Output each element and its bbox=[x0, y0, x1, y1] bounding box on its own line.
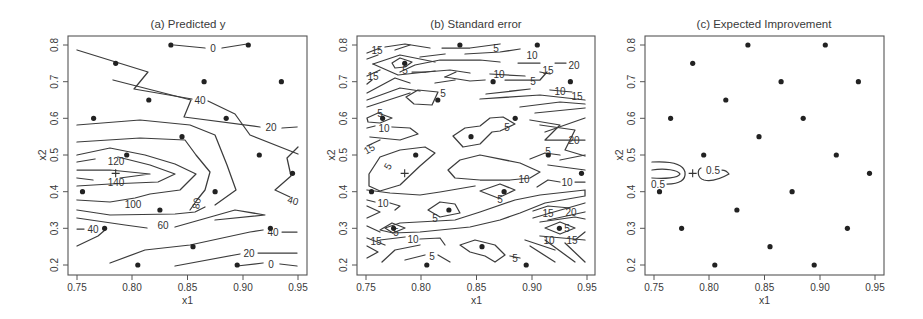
optimum-plus-marker bbox=[401, 169, 409, 177]
contour-label: 5 bbox=[564, 223, 570, 234]
contour-label: 15 bbox=[371, 45, 383, 56]
design-point bbox=[457, 42, 462, 47]
y-axis-label: x2 bbox=[325, 149, 337, 160]
contour-label: 10 bbox=[493, 69, 505, 80]
y-tick-label: 0.3 bbox=[49, 221, 60, 235]
design-point bbox=[369, 189, 374, 194]
x-tick-label: 0.75 bbox=[67, 282, 87, 293]
design-point bbox=[190, 244, 195, 249]
design-point bbox=[435, 97, 440, 102]
x-tick-label: 0.80 bbox=[122, 282, 142, 293]
y-tick-label: 0.8 bbox=[626, 38, 637, 52]
design-point bbox=[856, 79, 861, 84]
y-tick-label: 0.6 bbox=[49, 111, 60, 125]
design-point bbox=[546, 152, 551, 157]
y-tick-label: 0.6 bbox=[338, 111, 349, 125]
y-tick-label: 0.3 bbox=[338, 221, 349, 235]
y-tick-label: 0.2 bbox=[49, 258, 60, 272]
contour-label: 0.5 bbox=[706, 165, 720, 176]
x-tick-label: 0.75 bbox=[356, 282, 376, 293]
contour-label: 15 bbox=[542, 65, 554, 76]
contour-label: 10 bbox=[377, 198, 389, 209]
y-tick-label: 0.7 bbox=[338, 74, 349, 88]
y-tick-label: 0.5 bbox=[338, 148, 349, 162]
design-point bbox=[690, 61, 695, 66]
design-point bbox=[157, 207, 162, 212]
x-tick-label: 0.95 bbox=[288, 282, 308, 293]
design-point bbox=[734, 207, 739, 212]
contour-label: 10 bbox=[554, 86, 566, 97]
contour-label: 20 bbox=[243, 248, 255, 259]
contour-label: 5 bbox=[530, 76, 536, 87]
x-tick-label: 0.90 bbox=[522, 282, 542, 293]
contour-label: 15 bbox=[571, 91, 583, 102]
panel-title: (c) Expected Improvement bbox=[697, 18, 833, 30]
contour-label: 10 bbox=[407, 234, 419, 245]
panel-expected-improvement: (c) Expected Improvement 0.75 0.80 0.85 … bbox=[613, 18, 885, 306]
contour-label: 140 bbox=[108, 177, 125, 188]
design-point bbox=[380, 116, 385, 121]
contour-label: 100 bbox=[125, 199, 142, 210]
y-axis: 0.2 0.3 0.4 0.5 0.6 0.7 0.8 x2 bbox=[613, 38, 645, 272]
y-tick-label: 0.5 bbox=[49, 148, 60, 162]
design-points bbox=[369, 42, 584, 267]
contour-labels: 0 20 40 120 140 100 80 60 40 40 40 20 0 bbox=[87, 43, 300, 270]
contour-label: 10 bbox=[518, 174, 530, 185]
contour-label: 5 bbox=[497, 194, 503, 205]
contour-label: 20 bbox=[265, 122, 277, 133]
design-point bbox=[524, 262, 529, 267]
y-tick-label: 0.7 bbox=[626, 74, 637, 88]
design-point bbox=[513, 116, 518, 121]
design-point bbox=[268, 226, 273, 231]
design-point bbox=[124, 152, 129, 157]
x-axis-label: x1 bbox=[759, 294, 770, 306]
design-point bbox=[801, 116, 806, 121]
design-point bbox=[179, 134, 184, 139]
figure: (a) Predicted y 0.75 0.80 0.85 0.90 0.95… bbox=[0, 0, 923, 319]
design-point bbox=[391, 226, 396, 231]
y-tick-label: 0.3 bbox=[626, 221, 637, 235]
contour-label: 5 bbox=[429, 251, 435, 262]
contour-label: 40 bbox=[87, 224, 99, 235]
design-point bbox=[812, 262, 817, 267]
y-tick-label: 0.5 bbox=[626, 148, 637, 162]
design-point bbox=[413, 152, 418, 157]
design-point bbox=[213, 189, 218, 194]
x-axis: 0.75 0.80 0.85 0.90 0.95 x1 bbox=[356, 275, 597, 306]
design-point bbox=[146, 97, 151, 102]
design-point bbox=[790, 189, 795, 194]
design-point bbox=[468, 134, 473, 139]
y-tick-label: 0.2 bbox=[338, 258, 349, 272]
contour-label: 15 bbox=[367, 71, 379, 82]
x-tick-label: 0.75 bbox=[644, 282, 664, 293]
design-point bbox=[767, 244, 772, 249]
design-point bbox=[568, 79, 573, 84]
optimum-plus-marker bbox=[689, 169, 697, 177]
contour-label: 20 bbox=[565, 207, 577, 218]
y-tick-label: 0.7 bbox=[49, 74, 60, 88]
y-tick-label: 0.8 bbox=[338, 38, 349, 52]
design-point bbox=[235, 262, 240, 267]
design-point bbox=[224, 116, 229, 121]
x-axis: 0.75 0.80 0.85 0.90 0.95 x1 bbox=[644, 275, 885, 306]
design-point bbox=[257, 152, 262, 157]
panel-standard-error: (b) Standard error 0.75 0.80 0.85 0.90 0… bbox=[325, 18, 597, 306]
y-tick-label: 0.4 bbox=[49, 184, 60, 198]
contour-label: 10 bbox=[378, 123, 390, 134]
design-point bbox=[491, 79, 496, 84]
design-point bbox=[535, 42, 540, 47]
contour-label: 5 bbox=[402, 65, 408, 76]
contour-label: 5 bbox=[432, 213, 438, 224]
x-tick-label: 0.90 bbox=[233, 282, 253, 293]
contour-label: 120 bbox=[108, 156, 125, 167]
design-point bbox=[402, 61, 407, 66]
design-point bbox=[823, 42, 828, 47]
x-tick-label: 0.80 bbox=[699, 282, 719, 293]
design-point bbox=[80, 189, 85, 194]
design-point bbox=[867, 171, 872, 176]
design-points bbox=[657, 42, 872, 267]
design-points bbox=[80, 42, 295, 267]
contour-label: 40 bbox=[286, 194, 300, 208]
contour-label: 0 bbox=[210, 43, 216, 54]
x-tick-label: 0.85 bbox=[467, 282, 487, 293]
